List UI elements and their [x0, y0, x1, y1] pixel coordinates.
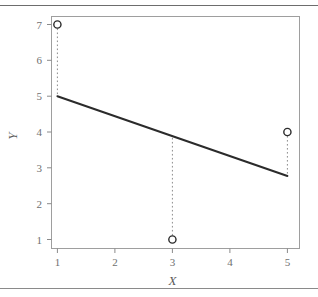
scatter-plot: 7 6 5 4 3 2 1 1 2 3 4 5 — [0, 8, 318, 286]
data-point-1 — [54, 21, 61, 28]
figure-container: 7 6 5 4 3 2 1 1 2 3 4 5 — [0, 8, 318, 286]
y-axis-tick-labels: 7 6 5 4 3 2 1 — [37, 19, 43, 246]
x-tick-label-2: 2 — [112, 256, 118, 268]
y-tick-label-1: 1 — [37, 234, 43, 246]
page-divider-top — [0, 5, 318, 6]
fitted-line — [57, 96, 287, 176]
data-point-3 — [284, 128, 291, 135]
y-tick-label-5: 5 — [37, 90, 43, 102]
x-axis-tick-labels: 1 2 3 4 5 — [55, 256, 291, 268]
y-tick-label-6: 6 — [37, 54, 43, 66]
y-tick-label-3: 3 — [37, 162, 43, 174]
y-axis-title: Y — [5, 131, 20, 140]
x-tick-label-4: 4 — [227, 256, 233, 268]
plot-frame — [52, 17, 300, 249]
y-tick-label-2: 2 — [37, 198, 43, 210]
x-tick-label-5: 5 — [285, 256, 291, 268]
x-axis-title: X — [167, 273, 177, 286]
residual-lines — [57, 25, 287, 240]
data-point-markers — [54, 21, 291, 243]
y-axis-ticks — [47, 25, 52, 240]
x-tick-label-3: 3 — [170, 256, 176, 268]
x-tick-label-1: 1 — [55, 256, 61, 268]
x-axis-ticks — [57, 249, 287, 254]
y-tick-label-7: 7 — [37, 19, 43, 31]
page-divider-bottom — [0, 288, 318, 289]
y-tick-label-4: 4 — [37, 126, 43, 138]
data-point-2 — [169, 236, 176, 243]
